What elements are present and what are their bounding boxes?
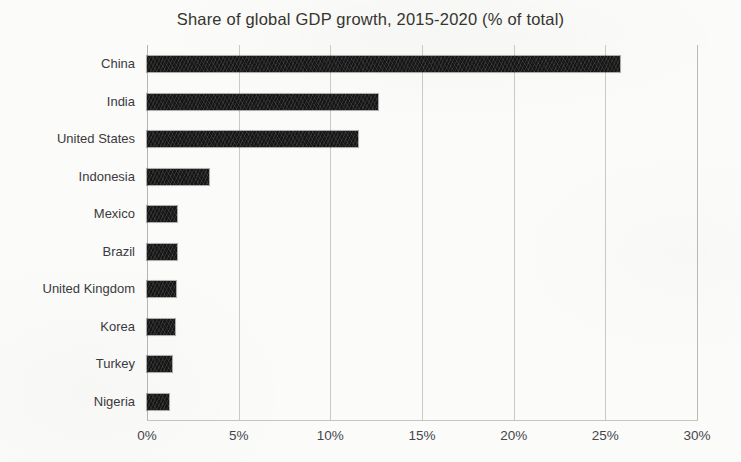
bar-row[interactable]: Nigeria bbox=[147, 383, 697, 421]
bar[interactable] bbox=[147, 244, 177, 260]
x-tick-label: 25% bbox=[565, 428, 645, 443]
category-label: Nigeria bbox=[0, 394, 147, 410]
bar-row[interactable]: Brazil bbox=[147, 233, 697, 271]
x-tick-label: 30% bbox=[657, 428, 737, 443]
category-label: India bbox=[0, 94, 147, 110]
category-label: China bbox=[0, 56, 147, 72]
chart-title: Share of global GDP growth, 2015-2020 (%… bbox=[0, 10, 741, 29]
x-tick-label: 5% bbox=[199, 428, 279, 443]
category-label: United Kingdom bbox=[0, 281, 147, 297]
category-label: Indonesia bbox=[0, 169, 147, 185]
chart-page: Share of global GDP growth, 2015-2020 (%… bbox=[0, 0, 741, 462]
bar[interactable] bbox=[147, 281, 176, 297]
category-label: Korea bbox=[0, 319, 147, 335]
bar[interactable] bbox=[147, 94, 378, 110]
x-tick-label: 20% bbox=[474, 428, 554, 443]
x-tick-label: 0% bbox=[107, 428, 187, 443]
plot-area: ChinaIndiaUnited StatesIndonesiaMexicoBr… bbox=[147, 45, 697, 420]
category-label: United States bbox=[0, 131, 147, 147]
bar-row[interactable]: Korea bbox=[147, 308, 697, 346]
bar-row[interactable]: Indonesia bbox=[147, 158, 697, 196]
gridline-30pct bbox=[697, 45, 698, 420]
bar-row[interactable]: India bbox=[147, 83, 697, 121]
bar[interactable] bbox=[147, 394, 169, 410]
category-label: Mexico bbox=[0, 206, 147, 222]
bar[interactable] bbox=[147, 131, 358, 147]
x-tick-label: 15% bbox=[382, 428, 462, 443]
x-axis-baseline bbox=[147, 420, 698, 421]
bar[interactable] bbox=[147, 56, 620, 72]
bar[interactable] bbox=[147, 319, 175, 335]
bar-row[interactable]: Mexico bbox=[147, 195, 697, 233]
bar[interactable] bbox=[147, 356, 172, 372]
x-tick-label: 10% bbox=[290, 428, 370, 443]
bar-row[interactable]: United States bbox=[147, 120, 697, 158]
bar-row[interactable]: China bbox=[147, 45, 697, 83]
category-label: Brazil bbox=[0, 244, 147, 260]
bar-row[interactable]: United Kingdom bbox=[147, 270, 697, 308]
bar[interactable] bbox=[147, 169, 209, 185]
bar-row[interactable]: Turkey bbox=[147, 345, 697, 383]
category-label: Turkey bbox=[0, 356, 147, 372]
bar[interactable] bbox=[147, 206, 177, 222]
